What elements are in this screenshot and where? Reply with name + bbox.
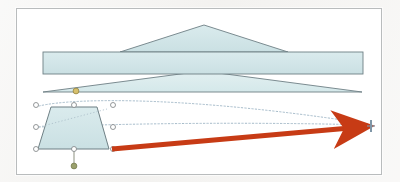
canvas-content — [17, 9, 381, 174]
screenshot-root — [0, 0, 400, 182]
drag-arrow — [112, 128, 350, 149]
drawing-canvas[interactable] — [16, 8, 382, 175]
annotation-layer — [17, 9, 381, 174]
